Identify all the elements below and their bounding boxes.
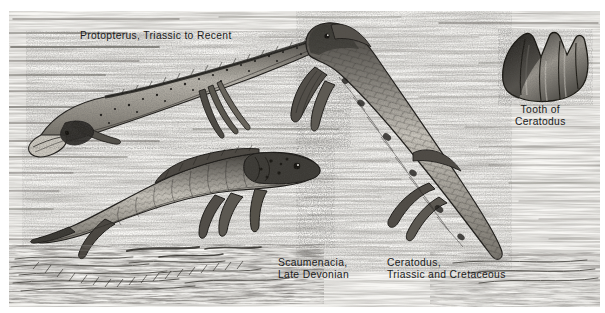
label-scaumenacia: Scaumenacia, Late Devonian [278,257,349,282]
label-tooth-of-ceratodus: Tooth of Ceratodus [515,104,566,129]
illustration-plate: Protopterus, Triassic to Recent Scaumena… [0,0,605,313]
label-protopterus: Protopterus, Triassic to Recent [80,30,232,42]
illustration-panel: Protopterus, Triassic to Recent Scaumena… [9,11,600,307]
label-ceratodus: Ceratodus, Triassic and Cretaceous [387,257,506,282]
